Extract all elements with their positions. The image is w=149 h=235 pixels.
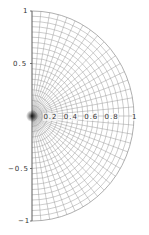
y-tick-label: −1 <box>18 217 30 225</box>
x-tick-label: 0.8 <box>105 113 119 121</box>
spoke <box>32 89 131 116</box>
origin-shading <box>26 110 38 122</box>
x-tick-label: 0.2 <box>43 113 57 121</box>
x-tick-label: 0.6 <box>84 113 98 121</box>
x-tick-label: 0.4 <box>64 113 78 121</box>
x-tick-label: 1 <box>132 113 137 121</box>
spoke <box>32 15 58 116</box>
spoke <box>32 116 58 217</box>
y-tick-label: 0.5 <box>13 60 27 68</box>
y-tick-label: −0.5 <box>8 165 29 173</box>
y-tick-label: 1 <box>23 7 28 15</box>
